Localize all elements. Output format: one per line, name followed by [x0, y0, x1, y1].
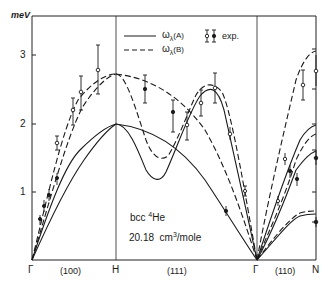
annotation-volume-value: 20.18 cm	[129, 232, 173, 243]
y-ticks	[32, 49, 316, 222]
annotation-volume-unit: /mole	[177, 232, 201, 243]
x-segment-111: (111)	[167, 266, 187, 276]
x-point-gamma-1: Γ	[28, 265, 34, 275]
legend-a-omega: ω	[162, 29, 170, 40]
legend-b-arg: (B)	[173, 45, 184, 54]
x-point-h: H	[112, 265, 119, 275]
legend-exp-markers	[205, 30, 216, 42]
annotation-he: He	[152, 212, 165, 223]
x-point-gamma-2: Γ	[253, 265, 259, 275]
annotation-material: bcc 4He	[130, 210, 165, 223]
x-point-n: N	[312, 265, 319, 275]
y-tick-1: 1	[20, 187, 26, 197]
annotation-bcc: bcc	[130, 212, 146, 223]
legend-label-b: ωλ(B)	[162, 44, 184, 58]
legend-label-exp: exp.	[222, 31, 239, 41]
y-tick-3: 3	[20, 50, 26, 60]
series-B-dashed	[32, 51, 316, 260]
y-tick-2: 2	[20, 119, 26, 129]
legend-lines	[124, 36, 156, 50]
x-segment-110: (110)	[275, 266, 295, 276]
y-axis-unit: meV	[11, 10, 30, 20]
legend-a-arg: (A)	[173, 31, 184, 40]
legend-b-omega: ω	[162, 43, 170, 54]
annotation-molar-volume: 20.18 cm3/mole	[129, 230, 201, 243]
legend-label-a: ωλ(A)	[162, 30, 184, 44]
x-segment-100: (100)	[60, 266, 81, 276]
